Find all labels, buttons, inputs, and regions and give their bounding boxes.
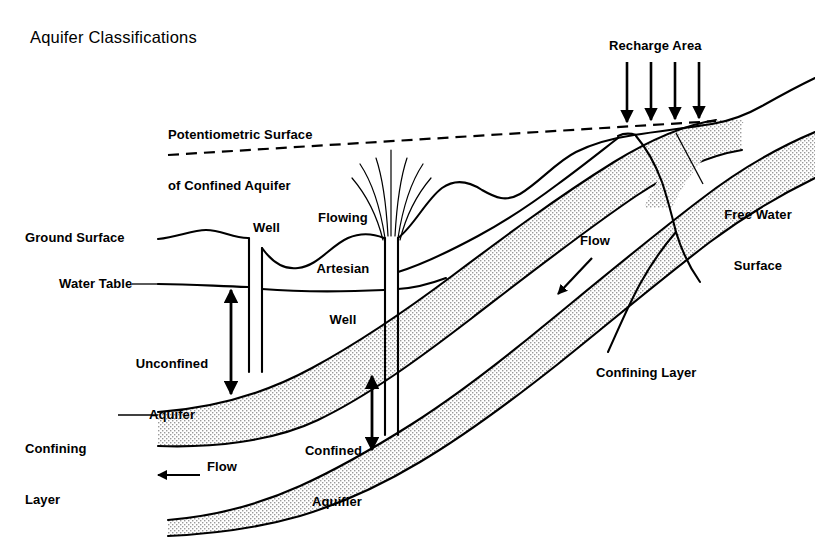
artesian-line-1: Flowing — [305, 209, 381, 226]
label-potentiometric-surface: Potentiometric Surface of Confined Aquif… — [168, 92, 313, 228]
free-water-line-2: Surface — [708, 257, 808, 274]
well-casing-1 — [249, 238, 262, 372]
confined-line-2: Aquifier — [268, 493, 362, 510]
aquifer-cross-section-svg — [0, 0, 815, 546]
artesian-line-2: Artesian — [305, 260, 381, 277]
unconfined-line-1: Unconfined — [124, 355, 220, 372]
free-water-line-1: Free Water — [708, 206, 808, 223]
potentiometric-line-1: Potentiometric Surface — [168, 126, 313, 143]
unconfined-line-2: Aquifer — [124, 406, 220, 423]
confined-line-1: Confined — [268, 442, 362, 459]
label-well: Well — [253, 219, 280, 236]
label-confined-aquifer: Confined Aquifier — [268, 408, 362, 544]
label-unconfined-aquifer: Unconfined Aquifer — [124, 321, 220, 457]
artesian-line-3: Well — [305, 311, 381, 328]
label-flow-left: Flow — [207, 458, 237, 475]
label-confining-layer-right: Confining Layer — [596, 364, 696, 381]
flow-arrow-right — [558, 258, 592, 294]
confining-left-line-1: Confining — [25, 440, 87, 457]
label-recharge-area: Recharge Area — [609, 37, 702, 54]
label-water-table: Water Table — [59, 275, 132, 292]
recharge-arrows — [627, 62, 699, 122]
potentiometric-line-2: of Confined Aquifer — [168, 177, 313, 194]
water-table-line — [158, 278, 446, 291]
label-ground-surface: Ground Surface — [25, 229, 125, 246]
label-confining-layer-left: Confining Layer — [25, 406, 87, 542]
label-flowing-artesian-well: Flowing Artesian Well — [305, 175, 381, 362]
label-flow-right: Flow — [580, 232, 610, 249]
diagram-canvas: Aquifer Classifications — [0, 0, 815, 546]
label-free-water-surface: Free Water Surface — [708, 172, 808, 308]
confining-left-line-2: Layer — [25, 491, 87, 508]
